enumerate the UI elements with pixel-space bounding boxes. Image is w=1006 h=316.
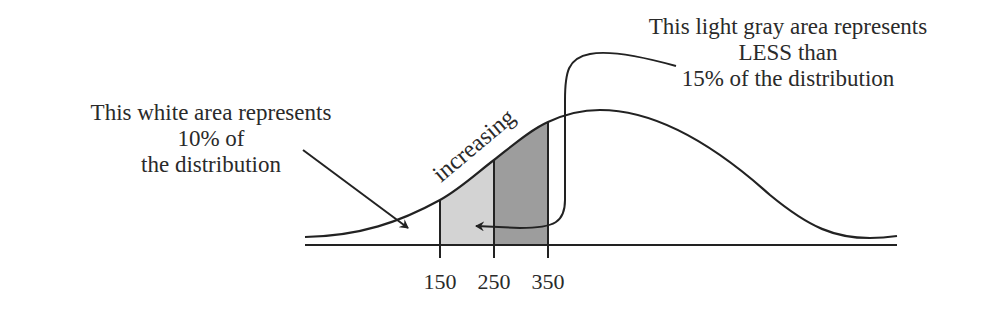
distribution-curve <box>305 110 897 238</box>
white-area-annotation: This white area represents 10% of the di… <box>52 100 370 178</box>
light-gray-annotation-line-1: This light gray area represents <box>598 14 978 40</box>
white-area-annotation-line-2: 10% of <box>52 126 370 152</box>
light-gray-area-annotation: This light gray area represents LESS tha… <box>598 14 978 92</box>
light-gray-annotation-line-3: 15% of the distribution <box>598 66 978 92</box>
white-area-annotation-line-1: This white area represents <box>52 100 370 126</box>
tick-label-150: 150 <box>410 270 470 294</box>
white-area-annotation-line-3: the distribution <box>52 152 370 178</box>
light-gray-annotation-line-2: LESS than <box>598 40 978 66</box>
tick-label-350: 350 <box>518 270 578 294</box>
tick-label-250: 250 <box>464 270 524 294</box>
